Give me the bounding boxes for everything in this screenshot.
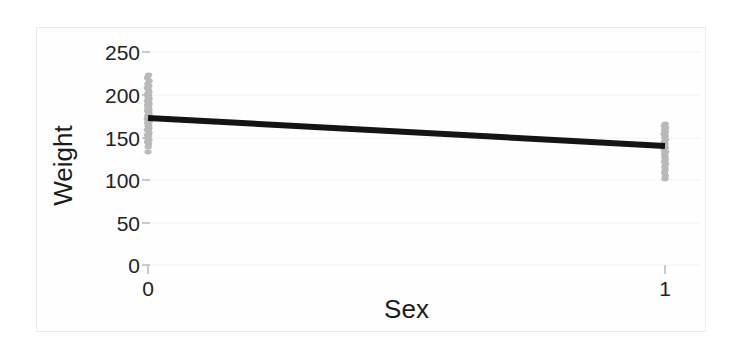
y-tick-label-100: 100: [105, 170, 140, 191]
regression-line: [148, 118, 665, 146]
y-axis-label: Weight: [48, 81, 79, 251]
x-axis-ticks: [148, 265, 665, 274]
scatter-points-sex-1: [660, 122, 669, 182]
y-tick-label-0: 0: [128, 255, 140, 276]
scatter-points-sex-0: [144, 73, 153, 155]
y-tick-label-150: 150: [105, 128, 140, 149]
figure-canvas: 250 200 150 100 50 0 0 1 Weight Sex: [0, 0, 739, 354]
y-tick-label-50: 50: [117, 213, 140, 234]
y-tick-label-200: 200: [105, 85, 140, 106]
y-tick-label-250: 250: [105, 42, 140, 63]
y-gridlines: [148, 52, 700, 265]
x-axis-label: Sex: [148, 294, 665, 325]
